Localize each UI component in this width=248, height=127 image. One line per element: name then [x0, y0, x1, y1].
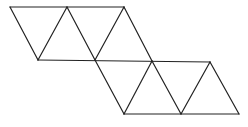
edge-CF — [124, 7, 152, 61]
edge-EC — [95, 7, 124, 60]
edge-DB — [38, 7, 67, 60]
edge-GJ — [210, 62, 239, 114]
edge-DG — [38, 60, 210, 62]
edge-EH — [95, 60, 124, 114]
edge-AD — [10, 7, 38, 60]
edge-HF — [124, 61, 152, 114]
triangle-net-diagram — [0, 0, 248, 127]
edge-BE — [67, 7, 95, 60]
edge-IG — [181, 62, 210, 114]
triangle-net-svg — [0, 0, 248, 127]
edge-FI — [152, 61, 181, 114]
